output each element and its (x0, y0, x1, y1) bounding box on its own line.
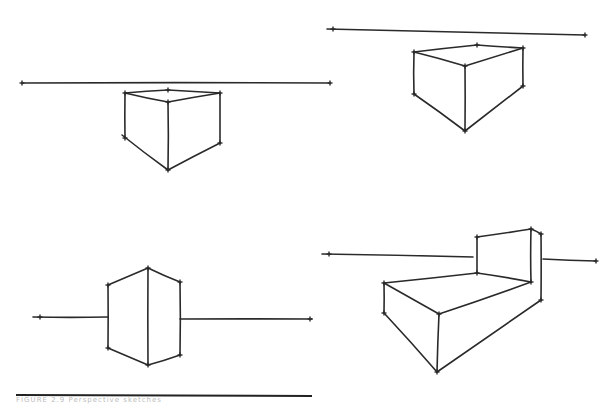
box-below-horizon-right (327, 27, 588, 134)
vertex-tick-mark (178, 353, 183, 358)
vertex-tick-mark (123, 91, 128, 96)
box-edge (414, 52, 465, 66)
box-edge (477, 45, 523, 48)
box-edge (148, 268, 180, 282)
sketch-canvas (0, 0, 609, 405)
chair-shape (322, 227, 599, 375)
box-edge (384, 283, 439, 314)
box-edge (125, 93, 168, 102)
box-edge (384, 273, 477, 283)
vertex-tick-mark (529, 227, 534, 232)
box-edge (477, 229, 531, 237)
vertex-tick-mark (178, 280, 183, 285)
vertex-tick-mark (475, 235, 480, 240)
vertex-tick-mark (475, 43, 480, 48)
box-edge (108, 348, 148, 365)
box-edge (477, 273, 531, 282)
vertex-tick-mark (308, 317, 313, 322)
figure-caption: FIGURE 2.9 Perspective sketches (16, 396, 162, 404)
horizon-line (543, 259, 596, 261)
horizon-line (322, 254, 473, 257)
vertex-tick-mark (146, 363, 151, 368)
vertex-tick-mark (327, 252, 332, 257)
vertex-tick-mark (594, 259, 599, 264)
box-edge (465, 86, 523, 131)
box-edge (414, 94, 465, 131)
box-edge (108, 268, 148, 285)
vertex-tick-mark (38, 315, 43, 320)
vertex-tick-mark (20, 81, 25, 86)
vertex-tick-mark (106, 283, 111, 288)
box-edge (168, 143, 220, 170)
vertex-tick-mark (583, 33, 588, 38)
box-on-horizon (33, 266, 313, 368)
box-edge (531, 229, 541, 234)
vertex-tick-mark (475, 271, 480, 276)
box-edge (122, 135, 168, 170)
box-edge (148, 355, 180, 365)
box-edge (437, 300, 541, 372)
vertex-tick-mark (529, 280, 534, 285)
box-below-horizon-left (20, 81, 333, 173)
box-edge (384, 313, 437, 372)
box-edge (168, 90, 220, 93)
vertex-tick-mark (166, 100, 171, 105)
box-edge (125, 90, 168, 93)
vertex-tick-mark (146, 266, 151, 271)
vertex-tick-mark (218, 91, 223, 96)
box-edge (414, 45, 477, 52)
box-edge (168, 93, 220, 102)
perspective-sketches (20, 27, 599, 375)
vertex-tick-mark (331, 27, 336, 32)
vertex-tick-mark (463, 64, 468, 69)
box-edge (437, 314, 439, 372)
box-edge (439, 282, 531, 314)
vertex-tick-mark (106, 346, 111, 351)
vertex-tick-mark (521, 46, 526, 51)
horizon-line (327, 29, 585, 35)
box-edge (465, 48, 523, 66)
vertex-tick-mark (166, 88, 171, 93)
vertex-tick-mark (412, 50, 417, 55)
vertex-tick-mark (328, 81, 333, 86)
